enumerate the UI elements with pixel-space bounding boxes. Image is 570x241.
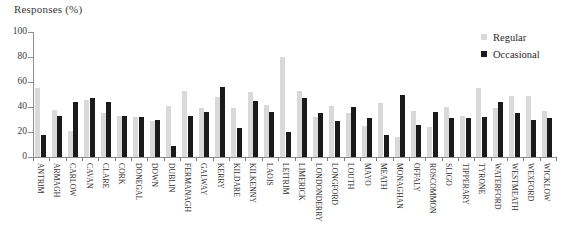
y-axis-tick-label: 40: [0, 101, 27, 111]
x-axis-label: CLARE: [101, 163, 110, 188]
x-axis-label: CARLOW: [68, 163, 77, 197]
x-axis-tick: [376, 157, 377, 161]
x-axis-tick: [49, 157, 50, 161]
bar-group: [395, 32, 407, 157]
x-axis-tick: [295, 157, 296, 161]
x-axis-label: LEITRIM: [281, 163, 290, 195]
bar-regular: [264, 105, 269, 158]
x-axis-label: DOWN: [150, 163, 159, 187]
bar-group: [460, 32, 472, 157]
bar-occasional: [57, 116, 62, 157]
x-axis-label: WICKLOW: [542, 163, 551, 201]
bar-group: [84, 32, 96, 157]
x-axis-label: DUBLIN: [167, 163, 176, 192]
bar-group: [542, 32, 554, 157]
bar-group: [280, 32, 292, 157]
bar-occasional: [90, 98, 95, 157]
bar-regular: [493, 108, 498, 157]
x-axis-tick: [33, 157, 34, 161]
x-axis-tick: [458, 157, 459, 161]
bar-group: [166, 32, 178, 157]
bar-regular: [460, 116, 465, 157]
y-axis-tick-label: 100: [0, 26, 27, 36]
x-axis-tick: [115, 157, 116, 161]
x-axis-label: DONEGAL: [134, 163, 143, 200]
bar-regular: [182, 91, 187, 157]
x-axis-label: ROSCOMMON: [428, 163, 437, 214]
bar-occasional: [237, 128, 242, 157]
bar-regular: [476, 88, 481, 157]
bar-occasional: [318, 113, 323, 157]
bar-group: [101, 32, 113, 157]
x-axis-label: MONAGHAN: [395, 163, 404, 209]
bar-occasional: [204, 112, 209, 157]
bar-regular: [427, 127, 432, 157]
bar-chart: Responses (%) 020406080100 ANTRIMARMAGHC…: [0, 0, 570, 241]
bar-regular: [297, 91, 302, 157]
bar-occasional: [515, 113, 520, 157]
x-axis-tick: [229, 157, 230, 161]
x-axis-label: ANTRIM: [36, 163, 45, 194]
legend-label: Occasional: [493, 49, 540, 60]
bar-occasional: [171, 146, 176, 157]
legend-label: Regular: [493, 32, 526, 43]
x-axis-label: KERRY: [216, 163, 225, 189]
bar-occasional: [220, 87, 225, 157]
y-axis-tick-label: 20: [0, 126, 27, 136]
bar-group: [378, 32, 390, 157]
x-axis-label: CORK: [117, 163, 126, 185]
x-axis-tick: [311, 157, 312, 161]
bar-group: [150, 32, 162, 157]
bar-group: [199, 32, 211, 157]
x-axis-label: WATERFORD: [493, 163, 502, 209]
bar-occasional: [302, 98, 307, 157]
x-axis-tick: [523, 157, 524, 161]
bar-group: [35, 32, 47, 157]
bar-group: [329, 32, 341, 157]
x-axis-label: TYRONE: [477, 163, 486, 194]
legend-item: Occasional: [481, 48, 540, 65]
x-axis-tick: [409, 157, 410, 161]
x-axis-label: LOUTH: [346, 163, 355, 189]
bar-regular: [150, 121, 155, 157]
x-axis-label: MAYO: [363, 163, 372, 186]
y-axis-tick-label: 80: [0, 51, 27, 61]
bar-regular: [378, 103, 383, 157]
bar-regular: [52, 110, 57, 158]
x-axis-tick: [262, 157, 263, 161]
x-axis-tick: [66, 157, 67, 161]
bar-group: [52, 32, 64, 157]
y-axis-tick-label: 0: [0, 151, 27, 161]
bar-occasional: [253, 101, 258, 157]
x-axis-label: MEATH: [379, 163, 388, 190]
bar-regular: [133, 117, 138, 157]
x-axis-tick: [180, 157, 181, 161]
legend-swatch-icon: [481, 34, 487, 40]
bar-regular: [542, 111, 547, 157]
bar-occasional: [547, 118, 552, 157]
x-axis-label: TIPPERARY: [461, 163, 470, 205]
bar-regular: [199, 108, 204, 157]
bar-group: [427, 32, 439, 157]
bar-occasional: [351, 107, 356, 157]
bar-occasional: [122, 116, 127, 157]
bar-regular: [526, 96, 531, 157]
bar-occasional: [367, 118, 372, 157]
bar-regular: [280, 57, 285, 157]
x-axis-label: LONDONDERRY: [314, 163, 323, 221]
bar-occasional: [41, 135, 46, 158]
legend-swatch-icon: [481, 51, 487, 57]
bar-group: [248, 32, 260, 157]
bar-occasional: [498, 102, 503, 157]
x-axis-tick: [507, 157, 508, 161]
x-axis-label: WESTMEATH: [510, 163, 519, 211]
bar-occasional: [482, 117, 487, 157]
bar-occasional: [466, 118, 471, 157]
x-axis-label: LAOIS: [265, 163, 274, 186]
x-axis-label: ARMAGH: [52, 163, 61, 197]
x-axis-tick: [278, 157, 279, 161]
x-axis-label: SLIGO: [444, 163, 453, 186]
x-axis-tick: [540, 157, 541, 161]
x-axis-label: FERMANAGH: [183, 163, 192, 212]
bar-group: [182, 32, 194, 157]
